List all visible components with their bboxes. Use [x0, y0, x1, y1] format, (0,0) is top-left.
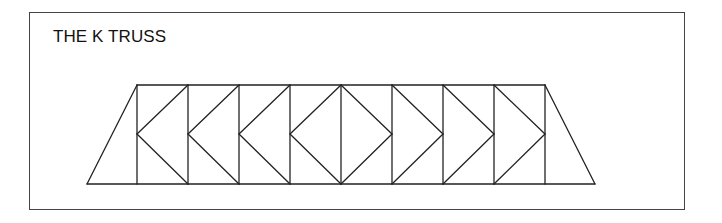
k-diagonal [137, 85, 188, 134]
k-diagonal [341, 85, 392, 134]
k-diagonal [494, 85, 545, 134]
right-end-post [545, 85, 595, 184]
k-diagonal [341, 134, 392, 184]
k-diagonal [137, 134, 188, 184]
k-diagonal [239, 134, 290, 184]
left-end-post [87, 85, 137, 184]
k-diagonal [392, 134, 443, 184]
k-diagonal [188, 85, 239, 134]
k-diagonal [494, 134, 545, 184]
k-diagonal [443, 134, 494, 184]
k-diagonal [290, 85, 341, 134]
k-diagonal [392, 85, 443, 134]
k-diagonal [443, 85, 494, 134]
k-truss-diagram [0, 0, 722, 223]
k-diagonal [239, 85, 290, 134]
k-diagonal [290, 134, 341, 184]
k-diagonal [188, 134, 239, 184]
